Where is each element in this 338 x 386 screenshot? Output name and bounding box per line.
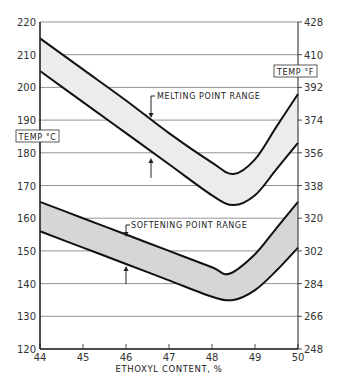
softening-point-label: SOFTENING POINT RANGE (131, 221, 247, 230)
range-bands (40, 38, 298, 300)
x-axis-title: ETHOXYL CONTENT, % (116, 364, 223, 374)
temperature-range-chart: 120130140150160170180190200210220 248266… (0, 0, 338, 386)
x-tick-label: 46 (120, 352, 133, 363)
y-tick-label-right: 338 (304, 181, 323, 192)
melting-point-label: MELTING POINT RANGE (157, 92, 261, 101)
temp-f-label: TEMP °F (276, 68, 314, 77)
y-tick-label-right: 374 (304, 115, 323, 126)
y-tick-label-left: 130 (17, 311, 36, 322)
y-tick-label-left: 190 (17, 115, 36, 126)
y-tick-label-right: 392 (304, 82, 323, 93)
y-axis-left-ticks: 120130140150160170180190200210220 (17, 17, 36, 355)
y-tick-label-right: 410 (304, 50, 323, 61)
y-tick-label-right: 284 (304, 279, 323, 290)
y-tick-label-right: 320 (304, 213, 323, 224)
y-tick-label-left: 150 (17, 246, 36, 257)
y-tick-label-left: 170 (17, 181, 36, 192)
y-tick-label-left: 140 (17, 279, 36, 290)
y-tick-label-right: 248 (304, 344, 323, 355)
melting-point-band (40, 38, 298, 205)
x-tick-label: 50 (292, 352, 305, 363)
y-axis-left-label: TEMP °C (16, 130, 59, 142)
y-tick-label-left: 200 (17, 82, 36, 93)
x-tick-label: 49 (249, 352, 262, 363)
y-tick-label-left: 180 (17, 148, 36, 159)
temp-c-label: TEMP °C (18, 133, 57, 142)
x-tick-label: 48 (206, 352, 219, 363)
y-tick-label-right: 428 (304, 17, 323, 28)
y-tick-label-right: 302 (304, 246, 323, 257)
y-tick-label-right: 356 (304, 148, 323, 159)
y-tick-label-left: 220 (17, 17, 36, 28)
y-tick-label-right: 266 (304, 311, 323, 322)
y-tick-label-left: 210 (17, 50, 36, 61)
x-tick-label: 45 (77, 352, 90, 363)
y-axis-right-label: TEMP °F (274, 65, 317, 77)
x-tick-label: 44 (34, 352, 47, 363)
x-tick-label: 47 (163, 352, 176, 363)
x-axis-ticks: 44454647484950 (34, 344, 305, 363)
y-tick-label-left: 160 (17, 213, 36, 224)
